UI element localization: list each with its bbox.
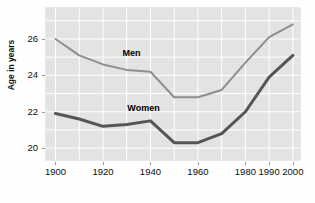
y-tick-mark	[42, 148, 45, 149]
x-tick-label: 2000	[273, 166, 313, 177]
x-tick-mark	[150, 162, 151, 165]
y-tick-mark	[42, 75, 45, 76]
x-tick-label: 1940	[130, 166, 170, 177]
x-tick-mark	[103, 162, 104, 165]
x-tick-label: 1960	[178, 166, 218, 177]
y-tick-label: 24	[12, 70, 38, 80]
x-tick-mark	[269, 162, 270, 165]
series-label-men: Men	[123, 48, 141, 58]
y-tick-mark	[42, 112, 45, 113]
x-tick-mark	[55, 162, 56, 165]
y-tick-label: 22	[12, 107, 38, 117]
y-tick-label: 26	[12, 34, 38, 44]
series-label-women: Women	[127, 103, 159, 113]
x-tick-label: 1900	[35, 166, 75, 177]
x-tick-mark	[293, 162, 294, 165]
x-tick-mark	[198, 162, 199, 165]
chart-container: Age in years 20222426 190019201940196019…	[0, 0, 315, 203]
x-tick-label: 1920	[83, 166, 123, 177]
x-tick-mark	[245, 162, 246, 165]
y-tick-label: 20	[12, 143, 38, 153]
y-tick-mark	[42, 39, 45, 40]
